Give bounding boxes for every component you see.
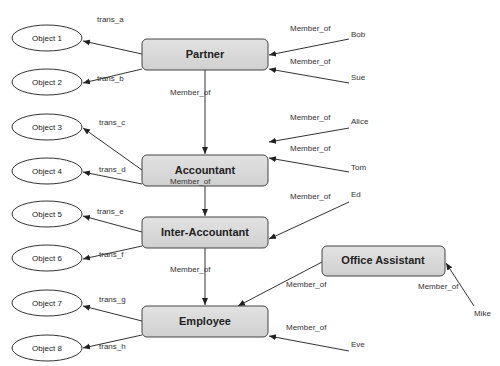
user-mike[interactable]: Mike — [474, 309, 491, 318]
object-node-3[interactable]: Object 3 — [12, 114, 82, 140]
hierarchy-edges — [205, 70, 322, 306]
edge-label-member-of: Member_of — [286, 280, 327, 289]
role-nodes: Partner Accountant Inter-Accountant Empl… — [142, 39, 445, 337]
edge-label-trans-c: trans_c — [99, 118, 125, 127]
object-nodes: Object 1 Object 2 Object 3 Object 4 Obje… — [12, 25, 82, 361]
user-ed[interactable]: Ed — [351, 190, 361, 199]
object-node-6[interactable]: Object 6 — [12, 245, 82, 271]
object-label: Object 3 — [32, 123, 62, 132]
object-node-5[interactable]: Object 5 — [12, 201, 82, 227]
role-node-inter-accountant[interactable]: Inter-Accountant — [142, 217, 268, 248]
object-label: Object 8 — [32, 344, 62, 353]
object-node-7[interactable]: Object 7 — [12, 290, 82, 316]
transaction-labels: trans_a trans_b trans_c trans_d trans_e … — [97, 15, 126, 351]
user-tom[interactable]: Tom — [351, 163, 366, 172]
edge-label-member-of: Member_of — [418, 282, 459, 291]
edge-label-member-of: Member_of — [170, 177, 211, 186]
edge-label-trans-b: trans_b — [97, 74, 124, 83]
edge-label-trans-d: trans_d — [99, 165, 126, 174]
role-label: Office Assistant — [341, 254, 425, 266]
role-label: Employee — [179, 315, 231, 327]
role-label: Inter-Accountant — [161, 226, 249, 238]
role-hierarchy-diagram: Partner Accountant Inter-Accountant Empl… — [0, 0, 500, 366]
user-sue[interactable]: Sue — [351, 73, 366, 82]
edge-label-member-of: Member_of — [286, 323, 327, 332]
role-node-employee[interactable]: Employee — [142, 306, 268, 337]
object-label: Object 2 — [32, 78, 62, 87]
object-node-4[interactable]: Object 4 — [12, 158, 82, 184]
edge-label-member-of: Member_of — [170, 88, 211, 97]
object-node-2[interactable]: Object 2 — [12, 69, 82, 95]
object-label: Object 4 — [32, 167, 62, 176]
role-label: Partner — [186, 48, 225, 60]
edge-label-member-of: Member_of — [290, 113, 331, 122]
object-label: Object 5 — [32, 210, 62, 219]
role-node-office-assistant[interactable]: Office Assistant — [322, 246, 445, 276]
edge-label-member-of: Member_of — [170, 265, 211, 274]
edge-label-member-of: Member_of — [290, 24, 331, 33]
edge-label-member-of: Member_of — [290, 192, 331, 201]
object-node-8[interactable]: Object 8 — [12, 335, 82, 361]
edge-label-trans-e: trans_e — [97, 207, 124, 216]
edge-label-trans-h: trans_h — [99, 342, 126, 351]
object-label: Object 6 — [32, 254, 62, 263]
object-label: Object 1 — [32, 34, 62, 43]
role-label: Accountant — [175, 164, 236, 176]
user-bob[interactable]: Bob — [351, 30, 366, 39]
edge-label-trans-f: trans_f — [99, 250, 124, 259]
object-label: Object 7 — [32, 299, 62, 308]
user-alice[interactable]: Alice — [351, 117, 369, 126]
edge-label-trans-a: trans_a — [97, 15, 124, 24]
edge-label-trans-g: trans_g — [99, 295, 126, 304]
edge-label-member-of: Member_of — [290, 144, 331, 153]
object-node-1[interactable]: Object 1 — [12, 25, 82, 51]
role-node-partner[interactable]: Partner — [142, 39, 268, 70]
user-eve[interactable]: Eve — [351, 340, 365, 349]
edge-label-member-of: Member_of — [290, 57, 331, 66]
